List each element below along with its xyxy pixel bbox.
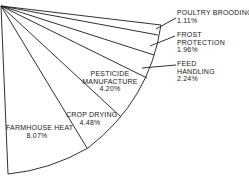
- label-poultry-brooding: POULTRY BROODING 1.11%: [177, 9, 249, 24]
- slice-name-cont: HANDLING: [177, 68, 215, 76]
- slice-name: FEED: [177, 60, 215, 68]
- divider-poultry-frost: [1, 6, 158, 35]
- leader-feed: [142, 65, 176, 68]
- wedge-left-edge: [1, 6, 8, 174]
- label-farmhouse-heat: FARMHOUSE HEAT 8.07%: [6, 124, 68, 139]
- leader-poultry: [156, 18, 176, 29]
- slice-name: FARMHOUSE HEAT: [6, 124, 68, 132]
- slice-name: POULTRY BROODING: [177, 9, 249, 17]
- slice-value: 4.20%: [82, 85, 138, 93]
- slice-name: CROP DRYING: [66, 111, 114, 119]
- slice-name: FROST: [177, 31, 225, 39]
- wedge-top-edge: [1, 6, 161, 25]
- label-pesticide-manufacture: PESTICIDE MANUFACTURE 4.20%: [82, 70, 138, 93]
- label-feed-handling: FEED HANDLING 2.24%: [177, 60, 215, 83]
- label-frost-protection: FROST PROTECTION 1.96%: [177, 31, 225, 54]
- slice-name: PESTICIDE: [82, 70, 138, 78]
- divider-frost-feed: [1, 6, 154, 55]
- slice-value: 8.07%: [6, 132, 68, 140]
- slice-value: 2.24%: [177, 75, 215, 83]
- slice-name-cont: MANUFACTURE: [82, 78, 138, 86]
- slice-value: 1.96%: [177, 46, 225, 54]
- divider-pesticide-crop: [1, 6, 121, 117]
- leader-frost: [150, 36, 175, 46]
- slice-name-cont: PROTECTION: [177, 39, 225, 47]
- slice-value: 4.48%: [66, 119, 114, 127]
- label-crop-drying: CROP DRYING 4.48%: [66, 111, 114, 126]
- slice-value: 1.11%: [177, 17, 249, 25]
